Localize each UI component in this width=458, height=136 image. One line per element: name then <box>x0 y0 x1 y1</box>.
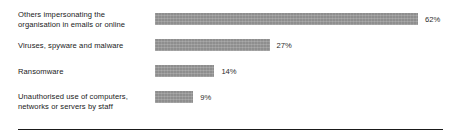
category-label-line1: Unauthorised use of computers, <box>18 92 128 101</box>
category-label-line1: Ransomware <box>18 67 64 76</box>
bar-value-label: 9% <box>200 92 211 103</box>
category-label-line2: networks or servers by staff <box>18 102 150 112</box>
chart-row: Viruses, spyware and malware 27% <box>0 38 458 64</box>
bar-value-label: 62% <box>425 14 440 25</box>
bar <box>155 39 270 51</box>
category-label-line1: Viruses, spyware and malware <box>18 41 123 50</box>
category-label: Others impersonating the organisation in… <box>18 10 150 29</box>
category-label: Unauthorised use of computers, networks … <box>18 92 150 111</box>
bar-chart: Others impersonating the organisation in… <box>0 0 458 136</box>
bar-value-label: 27% <box>277 40 292 51</box>
category-label: Viruses, spyware and malware <box>18 41 150 51</box>
bar <box>155 13 418 25</box>
chart-row: Ransomware 14% <box>0 64 458 90</box>
chart-row: Others impersonating the organisation in… <box>0 8 458 34</box>
chart-row: Unauthorised use of computers, networks … <box>0 90 458 116</box>
bar-value-label: 14% <box>221 66 236 77</box>
category-label: Ransomware <box>18 67 150 77</box>
bar <box>155 65 214 77</box>
bar <box>155 91 193 103</box>
footer-rule <box>18 129 443 130</box>
category-label-line1: Others impersonating the <box>18 10 105 19</box>
category-label-line2: organisation in emails or online <box>18 20 150 30</box>
